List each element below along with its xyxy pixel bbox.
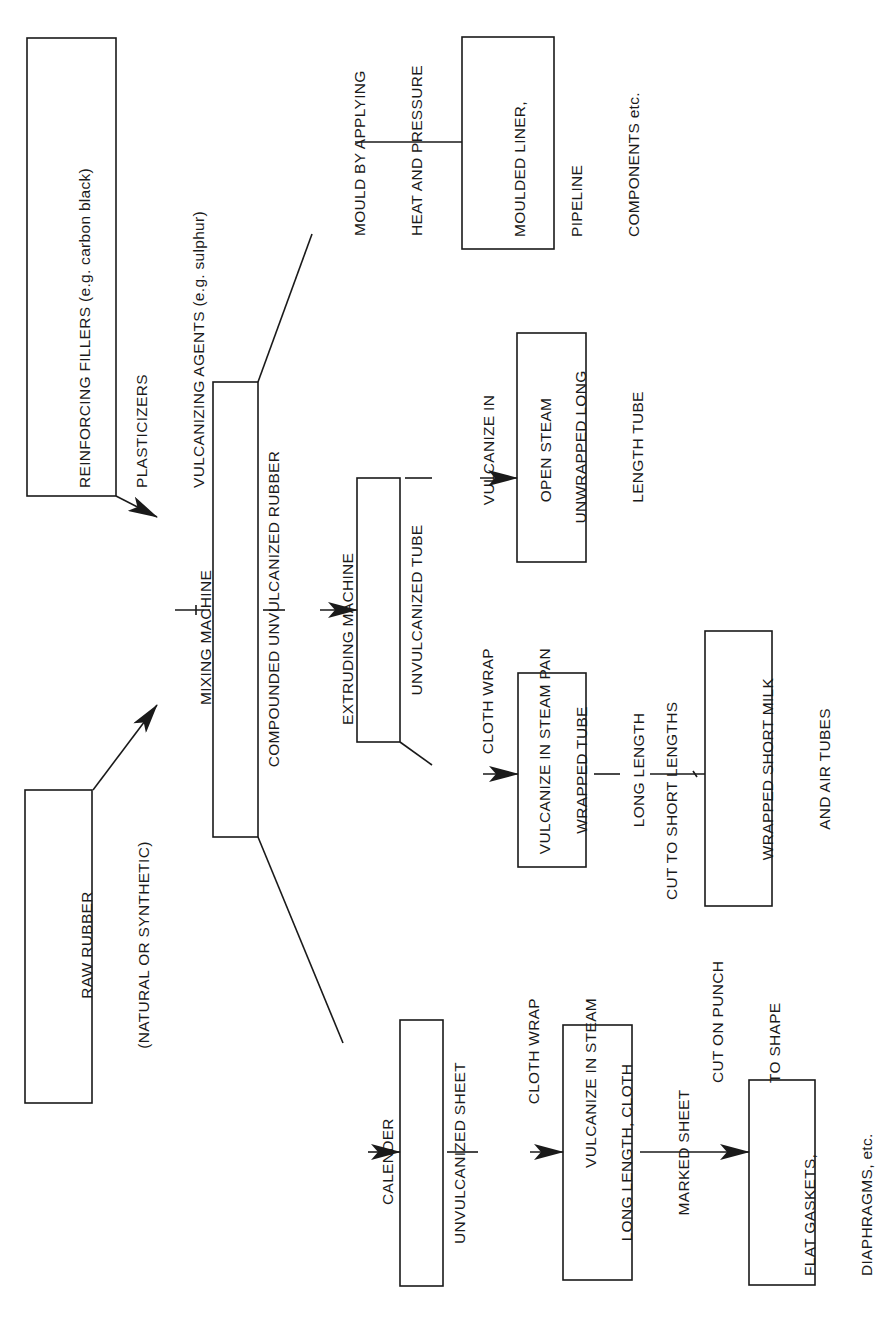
- process-label-cut-on-punch: CUT ON PUNCH TO SHAPE: [670, 913, 822, 1083]
- process-label-cloth-wrap-steam: CLOTH WRAP VULCANIZE IN STEAM: [486, 998, 638, 1218]
- box-label-reinforcing: REINFORCING FILLERS (e.g. carbon black) …: [37, 38, 246, 488]
- box-label-raw-rubber: RAW RUBBER (NATURAL OR SYNTHETIC): [39, 795, 191, 1095]
- process-label-mixing-machine: MIXING MACHINE: [158, 505, 253, 705]
- process-label-vulcanize-open-steam: VULCANIZE IN OPEN STEAM: [441, 375, 593, 525]
- process-label-extruding-machine: EXTRUDING MACHINE: [300, 525, 395, 725]
- process-label-calender: CALENDER: [340, 1085, 435, 1205]
- process-label-cloth-wrap-steam-pan: CLOTH WRAP VULCANIZE IN STEAM PAN: [440, 648, 592, 880]
- box-label-flat-gaskets: FLAT GASKETS, DIAPHRAGMS, etc.: [762, 1086, 879, 1276]
- process-label-cut-short-lengths: CUT TO SHORT LENGTHS: [624, 640, 719, 900]
- process-label-mould: MOULD BY APPLYING HEAT AND PRESSURE: [312, 0, 464, 236]
- box-label-wrapped-short: WRAPPED SHORT MILK AND AIR TUBES: [720, 638, 872, 900]
- box-label-moulded-liner: MOULDED LINER, PIPELINE COMPONENTS etc.: [472, 37, 681, 237]
